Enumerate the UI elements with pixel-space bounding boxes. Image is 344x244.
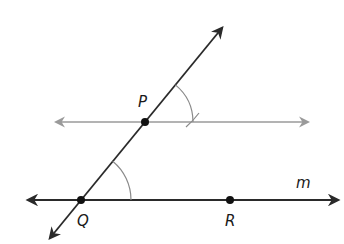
transversal-line-qp bbox=[50, 28, 222, 238]
label-q: Q bbox=[77, 212, 89, 230]
point-p bbox=[141, 118, 149, 126]
angle-arc-at-q bbox=[113, 161, 131, 200]
point-r bbox=[226, 196, 234, 204]
label-m: m bbox=[296, 174, 311, 192]
label-r: R bbox=[225, 212, 235, 230]
label-p: P bbox=[138, 93, 148, 111]
parallel-line-construction-diagram: P Q R m bbox=[0, 0, 344, 244]
angle-arc-at-p bbox=[175, 85, 193, 122]
point-q bbox=[77, 196, 85, 204]
